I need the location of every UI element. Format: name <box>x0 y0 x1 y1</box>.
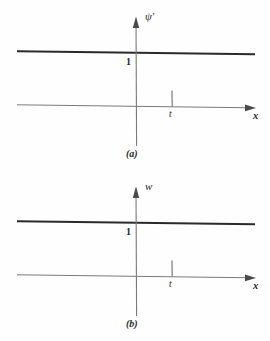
x-axis-line <box>17 105 252 108</box>
page-bleed-text <box>4 333 154 341</box>
chart-panel-b: w 1 t x (b) <box>0 170 270 340</box>
chart-canvas-b <box>0 170 270 340</box>
value-label-one-b: 1 <box>126 227 131 237</box>
panel-caption-b: (b) <box>126 319 138 329</box>
x-axis-line <box>17 275 252 278</box>
value-label-one-a: 1 <box>126 57 131 67</box>
x-axis-label-a: x <box>253 111 258 122</box>
y-axis-arrow-icon <box>133 17 139 29</box>
y-axis-label-a: ψ′ <box>145 11 154 22</box>
x-axis-label-b: x <box>253 281 258 292</box>
y-axis-line <box>136 190 137 316</box>
y-axis-arrow-icon <box>133 187 139 199</box>
x-tick-label-t-b: t <box>169 280 172 290</box>
x-tick-label-t-a: t <box>169 110 172 120</box>
panel-caption-a: (a) <box>126 149 138 159</box>
y-axis-line <box>136 20 137 146</box>
y-axis-label-b: w <box>145 181 152 192</box>
figure-root: ψ′ 1 t x (a) w 1 t x (b) <box>0 0 270 341</box>
chart-panel-a: ψ′ 1 t x (a) <box>0 0 270 170</box>
chart-canvas-a <box>0 0 270 170</box>
